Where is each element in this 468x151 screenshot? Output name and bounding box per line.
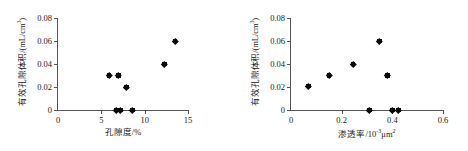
y-axis-tick xyxy=(287,41,291,42)
y-axis-tick xyxy=(287,110,291,111)
y-axis-tick-label: 0 xyxy=(281,106,285,115)
y-axis-tick-label: 0.04 xyxy=(37,60,52,69)
x-axis-tick xyxy=(443,110,444,114)
x-axis-tick-label: 5 xyxy=(99,116,103,125)
x-axis-tick xyxy=(342,110,343,114)
y-axis-label-right-text: 有效孔隙体积/(mL/cm xyxy=(250,24,260,106)
y-axis-tick-label: 0.08 xyxy=(37,14,52,23)
chart-panel-permeability: 有效孔隙体积/(mL/cm3) 渗透率/10-3μm2 00.020.040.0… xyxy=(234,0,468,151)
plot-area-right: 渗透率/10-3μm2 00.020.040.060.0800.20.40.6 xyxy=(290,18,443,111)
y-axis-tick-label: 0.06 xyxy=(270,37,285,46)
x-axis-tick-label: 0.2 xyxy=(336,116,347,125)
x-axis-label-right-main: 渗透率/10 xyxy=(338,129,376,139)
y-axis-tick xyxy=(54,64,58,65)
data-point xyxy=(367,108,372,113)
y-axis-label-left-tail: ) xyxy=(17,18,27,21)
data-point xyxy=(306,83,311,88)
x-axis-tick-label: 10 xyxy=(140,116,149,125)
data-point xyxy=(124,85,129,90)
x-axis-tick xyxy=(188,110,189,114)
y-axis-tick xyxy=(287,18,291,19)
data-point xyxy=(107,73,112,78)
y-axis-label-right-tail: ) xyxy=(250,18,260,21)
data-point xyxy=(130,108,135,113)
y-axis-tick xyxy=(54,41,58,42)
data-point xyxy=(118,108,123,113)
y-axis-tick xyxy=(54,87,58,88)
data-point xyxy=(327,73,332,78)
y-axis-tick-label: 0.06 xyxy=(37,37,52,46)
x-axis-tick xyxy=(101,110,102,114)
x-axis-tick-label: 0.4 xyxy=(387,116,398,125)
data-point xyxy=(351,62,356,67)
x-axis-tick-label: 0 xyxy=(289,116,293,125)
y-axis-label-left-sup: 3 xyxy=(16,21,22,24)
x-axis-label-right: 渗透率/10-3μm2 xyxy=(291,128,443,138)
figure-container: 有效孔隙体积/(mL/cm3) 孔隙度/% 00.020.040.060.080… xyxy=(0,0,468,151)
y-axis-tick-label: 0 xyxy=(48,106,52,115)
y-axis-label-right: 有效孔隙体积/(mL/cm3) xyxy=(246,7,258,117)
x-axis-label-left: 孔隙度/% xyxy=(58,128,188,137)
x-axis-label-right-unit: μm xyxy=(381,129,392,139)
x-axis-tick-label: 0 xyxy=(56,116,60,125)
x-axis-tick-label: 15 xyxy=(184,116,193,125)
y-axis-tick-label: 0.02 xyxy=(37,83,52,92)
data-point xyxy=(116,73,121,78)
y-axis-label-left-text: 有效孔隙体积/(mL/cm xyxy=(17,24,27,106)
data-point xyxy=(377,39,382,44)
y-axis-tick-label: 0.02 xyxy=(270,83,285,92)
x-axis-label-right-unit-sup: 2 xyxy=(393,128,396,134)
chart-panel-porosity: 有效孔隙体积/(mL/cm3) 孔隙度/% 00.020.040.060.080… xyxy=(0,0,234,151)
data-point xyxy=(385,73,390,78)
x-axis-tick xyxy=(145,110,146,114)
y-axis-tick xyxy=(54,110,58,111)
x-axis-tick-label: 0.6 xyxy=(438,116,449,125)
y-axis-label-right-sup: 3 xyxy=(249,21,255,24)
data-point xyxy=(173,39,178,44)
y-axis-tick xyxy=(287,64,291,65)
data-point xyxy=(162,62,167,67)
y-axis-label-left: 有效孔隙体积/(mL/cm3) xyxy=(13,7,25,117)
y-axis-tick xyxy=(54,18,58,19)
y-axis-tick-label: 0.04 xyxy=(270,60,285,69)
y-axis-tick-label: 0.08 xyxy=(270,14,285,23)
plot-area-left: 孔隙度/% 00.020.040.060.08051015 xyxy=(57,18,188,111)
data-point xyxy=(396,108,401,113)
y-axis-tick xyxy=(287,87,291,88)
